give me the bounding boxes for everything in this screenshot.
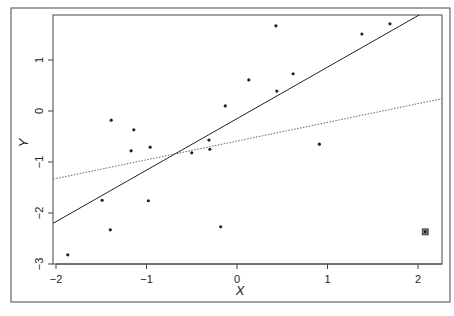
scatter-plot: −2−1012 −3−2−101 X Y: [0, 0, 454, 316]
x-tick-label: 1: [324, 273, 330, 285]
data-point: [388, 22, 391, 25]
data-point: [360, 32, 363, 35]
x-axis-title: X: [235, 283, 246, 298]
data-point: [207, 138, 210, 141]
y-axis: −3−2−101: [33, 57, 53, 270]
data-point: [130, 149, 133, 152]
y-tick-label: 1: [33, 57, 45, 63]
data-point: [190, 151, 193, 154]
data-point: [274, 24, 277, 27]
outlier-point: [424, 231, 427, 234]
outlier-points: [422, 229, 428, 235]
data-point: [110, 119, 113, 122]
data-point: [292, 72, 295, 75]
data-point: [147, 199, 150, 202]
data-point: [109, 228, 112, 231]
y-axis-title: Y: [16, 137, 31, 147]
plot-area: [53, 15, 442, 264]
x-tick-label: 2: [415, 273, 421, 285]
x-tick-label: −2: [50, 273, 63, 285]
data-point: [219, 225, 222, 228]
data-point: [247, 78, 250, 81]
data-point: [101, 199, 104, 202]
y-tick-label: −1: [33, 156, 45, 169]
x-tick-label: −1: [140, 273, 153, 285]
y-tick-label: 0: [33, 108, 45, 114]
data-point: [275, 90, 278, 93]
data-point: [224, 104, 227, 107]
fit-with-outlier-line: [53, 99, 442, 179]
outer-frame: [11, 8, 450, 302]
x-axis: −2−1012: [50, 264, 442, 285]
y-tick-label: −2: [33, 207, 45, 220]
data-point: [318, 143, 321, 146]
regression-lines: [53, 2, 442, 223]
data-point: [132, 128, 135, 131]
data-point: [66, 253, 69, 256]
fit-without-outlier-line: [53, 2, 442, 223]
data-point: [208, 148, 211, 151]
data-point: [149, 146, 152, 149]
y-tick-label: −3: [33, 258, 45, 271]
data-points: [66, 22, 391, 256]
